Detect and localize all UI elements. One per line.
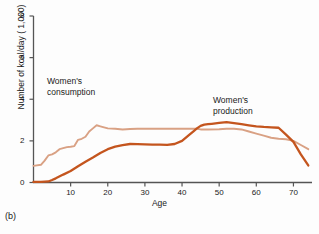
x-tick-label: 10 bbox=[61, 189, 81, 197]
y-axis-label: Number of kcal/day ( 1,000) bbox=[16, 5, 26, 110]
x-tick-label: 60 bbox=[246, 189, 266, 197]
annotation-production-line2: production bbox=[213, 106, 253, 117]
x-tick-label: 70 bbox=[283, 189, 303, 197]
x-tick-label: 50 bbox=[209, 189, 229, 197]
x-tick-label: 40 bbox=[172, 189, 192, 197]
x-tick-label: 30 bbox=[135, 189, 155, 197]
panel-label: (b) bbox=[5, 211, 16, 221]
annotation-consumption-line1: Women's bbox=[47, 76, 95, 87]
y-tick-label: 0 bbox=[13, 179, 25, 187]
figure-panel: 02468 10203040506070 Number of kcal/day … bbox=[0, 0, 319, 234]
line-womens-production bbox=[34, 122, 309, 182]
annotation-womens-production: Women's production bbox=[213, 95, 253, 116]
y-axis-label-wrapper: Number of kcal/day ( 1,000) bbox=[10, 0, 28, 132]
x-tick-label: 20 bbox=[98, 189, 118, 197]
axes-group bbox=[30, 16, 313, 187]
series-group bbox=[34, 122, 309, 182]
annotation-production-line1: Women's bbox=[213, 95, 253, 106]
annotation-womens-consumption: Women's consumption bbox=[47, 76, 95, 97]
annotation-consumption-line2: consumption bbox=[47, 87, 95, 98]
x-axis-label: Age bbox=[0, 198, 319, 208]
y-tick-label: 2 bbox=[13, 137, 25, 145]
